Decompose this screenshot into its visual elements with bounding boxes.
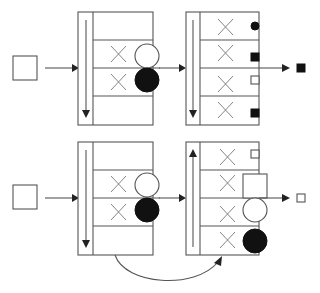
bottom-output-white-square — [297, 194, 305, 202]
bottom-mid-arrow — [159, 194, 186, 202]
top-stage2-box — [186, 12, 259, 125]
small-black-square-token — [251, 53, 259, 61]
top-input-square — [13, 56, 37, 80]
top-output-arrow — [259, 64, 290, 72]
bottom-input-arrow — [45, 194, 79, 202]
large-white-circle-token — [243, 198, 267, 222]
black-circle-token — [135, 198, 159, 222]
top-stage1-box — [78, 12, 160, 125]
black-circle-token — [135, 68, 159, 92]
white-circle-token — [135, 173, 159, 197]
small-black-square-token — [251, 109, 259, 117]
bottom-stage1-box — [78, 142, 160, 255]
bottom-row — [13, 142, 305, 280]
large-black-circle-token — [243, 229, 267, 253]
feedback-curved-arrow — [115, 255, 222, 280]
small-black-circle-token — [251, 22, 259, 30]
large-white-square-token — [243, 174, 267, 198]
top-row — [13, 12, 305, 125]
small-white-square-token — [251, 76, 259, 84]
top-mid-arrow — [159, 64, 186, 72]
bottom-input-square — [13, 185, 37, 209]
diagram-canvas — [0, 0, 320, 293]
bottom-stage2-box — [186, 142, 267, 255]
small-white-square-token — [251, 150, 259, 158]
white-circle-token — [135, 44, 159, 68]
top-output-black-square — [297, 64, 305, 72]
top-input-arrow — [45, 64, 79, 72]
